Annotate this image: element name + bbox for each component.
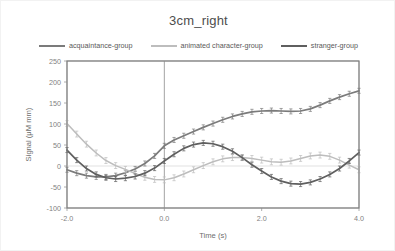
- y-tick-label: 200: [49, 78, 61, 87]
- y-tick-label: 150: [49, 99, 61, 108]
- y-tick-label: -50: [51, 183, 61, 192]
- plot-area: 250200150100500-50-100-2.00.02.04.0Time …: [1, 1, 395, 251]
- y-axis-title: Signal (μM mm): [24, 107, 33, 161]
- y-tick-label: 50: [53, 141, 61, 150]
- chart-figure: 3cm_right acquaintance-group animated ch…: [0, 0, 395, 251]
- x-tick-label: 4.0: [354, 214, 364, 223]
- y-tick-label: 250: [49, 57, 61, 66]
- plot-frame: [67, 61, 359, 208]
- x-tick-label: -2.0: [61, 214, 73, 223]
- y-tick-label: -100: [47, 204, 61, 213]
- line-chart-svg: 250200150100500-50-100-2.00.02.04.0Time …: [1, 1, 395, 251]
- x-axis-title: Time (s): [199, 231, 227, 240]
- x-tick-label: 2.0: [257, 214, 267, 223]
- y-tick-label: 100: [49, 120, 61, 129]
- x-tick-label: 0.0: [159, 214, 169, 223]
- y-tick-label: 0: [57, 162, 61, 171]
